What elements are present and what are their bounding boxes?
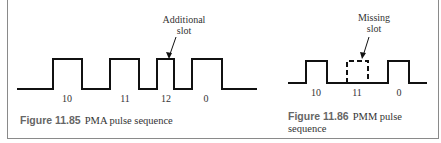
slot-label: 12: [161, 93, 171, 104]
missing-annotation-line1: Missing: [358, 12, 390, 23]
figure-number: Figure 11.86: [288, 110, 349, 122]
figure-number: Figure 11.85: [20, 114, 81, 126]
slot-label: 10: [62, 93, 72, 104]
arrowhead-icon: [166, 52, 172, 59]
caption-text: PMM pulse: [353, 111, 402, 122]
caption-text: PMA pulse sequence: [85, 115, 173, 126]
slot-label: 11: [120, 93, 130, 104]
missing-annotation-line2: slot: [367, 23, 382, 34]
additional-annotation-line1: Additional: [163, 14, 206, 25]
pmm-waveform: Missing slot 10 11 0: [288, 12, 427, 98]
arrowhead-icon: [360, 52, 366, 59]
slot-label: 0: [397, 87, 402, 98]
figure-caption-pmm: Figure 11.86PMM pulse sequence: [288, 110, 402, 135]
figure-caption-pma: Figure 11.85PMA pulse sequence: [20, 114, 173, 127]
slot-label: 11: [352, 87, 362, 98]
additional-annotation-line2: slot: [177, 25, 192, 36]
missing-slot-dashed-pulse: [347, 61, 368, 83]
caption-text-line2: sequence: [288, 123, 326, 134]
slot-label: 10: [311, 87, 321, 98]
pma-waveform: Additional slot 10 11 12 0: [17, 14, 257, 104]
slot-label: 0: [204, 93, 209, 104]
